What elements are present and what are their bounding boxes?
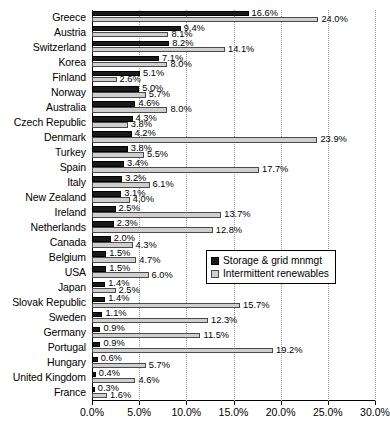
x-axis-tick-label: 10.0%	[171, 407, 201, 418]
bar-value-label: 14.1%	[228, 45, 254, 54]
category-label: Italy	[0, 175, 90, 190]
gridline	[375, 10, 376, 401]
bar-renewables	[92, 47, 225, 52]
bar-storage	[92, 146, 128, 151]
x-axis-tick	[281, 401, 282, 405]
bar-renewables	[92, 272, 149, 277]
bar-storage	[92, 176, 122, 181]
bar-storage	[92, 282, 105, 287]
bar-renewables	[92, 77, 117, 82]
bar-value-label: 2.6%	[120, 75, 141, 84]
x-axis: 0.0%5.0%10.0%15.0%20.0%25.0%30.0%	[92, 401, 375, 425]
bar-renewables	[92, 318, 208, 323]
category-label: Korea	[0, 55, 90, 70]
x-axis-tick-label: 30.0%	[360, 407, 390, 418]
bar-storage	[92, 312, 102, 317]
x-axis-tick-label: 25.0%	[313, 407, 343, 418]
category-label: Norway	[0, 85, 90, 100]
category-axis: GreeceAustriaSwitzerlandKoreaFinlandNorw…	[0, 10, 90, 400]
category-label: United Kingdom	[0, 370, 90, 385]
bar-row: 0.3%1.6%	[92, 386, 375, 401]
bar-storage	[92, 297, 105, 302]
category-label: Switzerland	[0, 40, 90, 55]
bar-renewables	[92, 242, 133, 247]
bar-renewables	[92, 227, 213, 232]
category-label: Turkey	[0, 145, 90, 160]
bar-storage	[92, 86, 139, 91]
bar-storage	[92, 236, 111, 241]
bar-renewables	[92, 257, 136, 262]
x-axis-tick	[186, 401, 187, 405]
category-label: Japan	[0, 280, 90, 295]
bar-value-label: 12.3%	[211, 316, 237, 325]
bar-row: 1.1%12.3%	[92, 310, 375, 325]
bar-renewables	[92, 393, 107, 398]
x-axis-tick	[328, 401, 329, 405]
category-label: Hungary	[0, 355, 90, 370]
bar-row: 0.6%5.7%	[92, 356, 375, 371]
bar-storage	[92, 342, 100, 347]
category-label: Denmark	[0, 130, 90, 145]
x-axis-tick-label: 5.0%	[127, 407, 151, 418]
category-label: France	[0, 385, 90, 400]
bar-value-label: 4.7%	[139, 256, 160, 265]
x-axis-tick	[375, 401, 376, 405]
bar-renewables	[92, 182, 150, 187]
bar-value-label: 12.8%	[216, 226, 242, 235]
bar-value-label: 17.7%	[262, 165, 288, 174]
bar-storage	[92, 41, 169, 46]
bar-renewables	[92, 17, 318, 22]
bar-storage	[92, 131, 132, 136]
bar-value-label: 24.0%	[321, 15, 347, 24]
x-axis-tick	[234, 401, 235, 405]
bar-value-label: 23.9%	[320, 135, 346, 144]
bar-value-label: 5.7%	[149, 361, 170, 370]
bar-renewables	[92, 333, 200, 338]
bar-renewables	[92, 167, 259, 172]
bar-renewables	[92, 378, 135, 383]
x-axis-tick	[139, 401, 140, 405]
bar-row: 7.1%8.0%	[92, 55, 375, 70]
bar-value-label: 1.6%	[110, 391, 131, 400]
bar-storage	[92, 266, 106, 271]
category-label: Canada	[0, 235, 90, 250]
bar-storage	[92, 161, 124, 166]
bar-storage	[92, 251, 106, 256]
bar-storage	[92, 101, 135, 106]
plot-area: 16.6%24.0%9.4%8.1%8.2%14.1%7.1%8.0%5.1%2…	[92, 10, 375, 401]
legend-item-storage: Storage & grid mnmgt	[211, 254, 329, 267]
x-axis-tick	[92, 401, 93, 405]
legend-swatch-light-icon	[211, 270, 219, 278]
bar-value-label: 5.1%	[143, 69, 164, 78]
category-label: Czech Republic	[0, 115, 90, 130]
bar-storage	[92, 26, 181, 31]
bar-row: 0.4%4.6%	[92, 371, 375, 386]
bar-storage	[92, 116, 133, 121]
category-label: Slovak Republic	[0, 295, 90, 310]
bar-value-label: 8.0%	[170, 60, 191, 69]
bar-renewables	[92, 348, 273, 353]
bar-storage	[92, 221, 114, 226]
bar-value-label: 4.6%	[138, 376, 159, 385]
bar-storage	[92, 327, 100, 332]
category-label: Netherlands	[0, 220, 90, 235]
bar-value-label: 5.5%	[147, 150, 168, 159]
bar-storage	[92, 357, 98, 362]
x-axis-tick-label: 20.0%	[266, 407, 296, 418]
bar-value-label: 6.1%	[153, 180, 174, 189]
category-label: Greece	[0, 10, 90, 25]
bar-renewables	[92, 32, 168, 37]
x-axis-tick-label: 0.0%	[80, 407, 104, 418]
bar-renewables	[92, 212, 221, 217]
bar-storage	[92, 11, 249, 16]
bar-renewables	[92, 288, 116, 293]
bar-row: 4.6%8.0%	[92, 100, 375, 115]
bar-renewables	[92, 363, 146, 368]
bar-row: 9.4%8.1%	[92, 25, 375, 40]
bar-renewables	[92, 122, 128, 127]
bar-row: 16.6%24.0%	[92, 10, 375, 25]
bar-value-label: 4.3%	[136, 241, 157, 250]
bar-row: 5.1%2.6%	[92, 70, 375, 85]
category-label: Ireland	[0, 205, 90, 220]
